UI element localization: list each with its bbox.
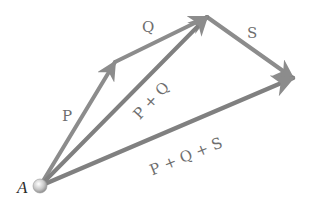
vector-p-label: P [62, 107, 72, 125]
origin-label: A [16, 178, 28, 197]
origin-point-icon [33, 179, 47, 193]
vector-s-label: S [247, 24, 257, 42]
vector-q-label: Q [142, 18, 154, 36]
vector-p-plus-q-label: P + Q [130, 78, 174, 123]
vector-q-arrow [115, 17, 207, 62]
vector-addition-diagram: A P Q S P + Q P + Q + S [0, 0, 311, 214]
vector-p-plus-q-plus-s-label: P + Q + S [147, 134, 225, 179]
